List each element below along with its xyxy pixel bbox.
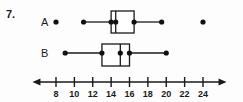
boxplot-canvas: 81012141618202224 [0,0,243,102]
outlier-dot [53,19,58,24]
boxplot-series-a [53,11,205,33]
data-point-dot [63,50,68,55]
data-point-dot [164,50,169,55]
data-point-dot [131,19,136,24]
box-iqr [102,44,130,66]
axis-tick-label: 18 [143,89,153,99]
axis-tick-label: 16 [124,89,134,99]
boxplot-figure: 7. A B 81012141618202224 [0,0,243,102]
axis-arrow-right-icon [219,78,227,85]
boxplot-series-b [63,44,169,66]
data-point-dot [127,50,132,55]
data-point-dot [118,50,123,55]
data-point-dot [109,19,114,24]
axis-tick-label: 10 [69,89,79,99]
data-point-dot [99,50,104,55]
data-point-dot [113,19,118,24]
axis-tick-label: 14 [106,89,116,99]
outlier-dot [200,19,205,24]
axis-arrow-left-icon [32,78,40,85]
axis-tick-label: 12 [88,89,98,99]
data-point-dot [159,19,164,24]
axis-tick-label: 8 [53,89,58,99]
data-point-dot [81,19,86,24]
axis-tick-label: 22 [180,89,190,99]
number-line-axis: 81012141618202224 [32,77,226,99]
axis-tick-label: 20 [161,89,171,99]
axis-tick-label: 24 [198,89,208,99]
